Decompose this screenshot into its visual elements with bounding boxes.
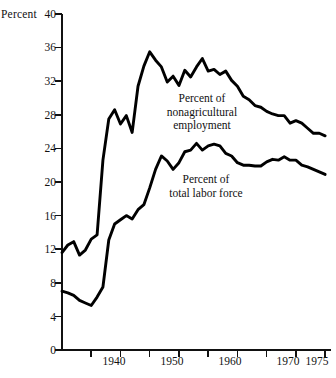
y-tick-label-4: 4 xyxy=(30,312,56,324)
x-tick-label-1950: 1950 xyxy=(152,356,192,368)
y-tick-label-32: 32 xyxy=(30,76,56,88)
y-tick-label-8: 8 xyxy=(30,278,56,290)
y-tick-label-36: 36 xyxy=(30,42,56,54)
annotation-labor-line-2: total labor force xyxy=(146,187,266,201)
annotation-labor-line-1: Percent of xyxy=(146,173,266,187)
union-membership-line-chart: Percent 40 36 32 28 24 20 16 12 8 4 0 19… xyxy=(0,0,336,378)
y-tick-label-0: 0 xyxy=(30,345,56,357)
x-tick-label-1975: 1975 xyxy=(297,356,336,368)
annotation-total-labor-force: Percent of total labor force xyxy=(146,173,266,200)
y-tick-label-24: 24 xyxy=(30,143,56,155)
y-tick-label-12: 12 xyxy=(30,244,56,256)
y-tick-label-40: 40 xyxy=(30,9,56,21)
annotation-nonag-line-1: Percent of xyxy=(140,92,264,106)
y-tick-label-16: 16 xyxy=(30,211,56,223)
annotation-nonagricultural-employment: Percent of nonagricultural employment xyxy=(140,92,264,133)
x-tick-label-1940: 1940 xyxy=(94,356,134,368)
annotation-nonag-line-2: nonagricultural xyxy=(140,106,264,120)
annotation-nonag-line-3: employment xyxy=(140,119,264,133)
y-tick-label-20: 20 xyxy=(30,177,56,189)
y-tick-label-28: 28 xyxy=(30,110,56,122)
x-tick-label-1960: 1960 xyxy=(210,356,250,368)
